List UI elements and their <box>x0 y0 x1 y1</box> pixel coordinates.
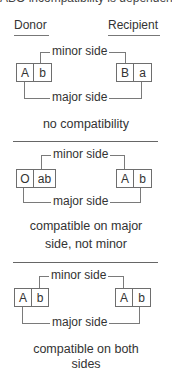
major-side-label: major side <box>50 316 109 329</box>
recipient-blood-type-box: A b <box>115 288 151 307</box>
donor-blood-type-box: A b <box>16 63 52 82</box>
recipient-antibody-cell: b <box>132 289 150 306</box>
donor-antigen-cell: A <box>15 289 31 306</box>
donor-underline <box>14 35 49 36</box>
minor-connector-left <box>40 52 41 63</box>
major-connector-left <box>22 307 23 323</box>
minor-connector-left <box>41 155 42 169</box>
major-connector-left <box>23 188 24 202</box>
donor-blood-type-box: A b <box>14 288 49 307</box>
section-divider <box>13 262 158 263</box>
recipient-antibody-cell: b <box>133 170 151 187</box>
recipient-antigen-cell: A <box>117 170 133 187</box>
recipient-antibody-cell: a <box>133 64 151 81</box>
recipient-blood-type-box: A b <box>116 169 152 188</box>
major-connector-right <box>141 82 142 98</box>
donor-antibody-cell: ab <box>33 170 55 187</box>
recipient-antigen-cell: A <box>116 289 132 306</box>
donor-antibody-cell: b <box>33 64 51 81</box>
donor-blood-type-box: O ab <box>16 169 56 188</box>
major-connector-right <box>139 307 140 323</box>
donor-heading: Donor <box>14 18 47 32</box>
top-clipped-text: ABO incompatibility is dependent <box>0 0 172 5</box>
caption-line-1: no compatibility <box>0 116 172 133</box>
major-side-label: major side <box>50 91 109 104</box>
donor-antigen-cell: O <box>17 170 33 187</box>
donor-antigen-cell: A <box>17 64 33 81</box>
caption-line-2: side, not minor <box>0 236 172 253</box>
major-connector-left <box>24 82 25 98</box>
minor-connector-right <box>123 276 124 288</box>
minor-connector-left <box>39 276 40 288</box>
caption-line-2: sides <box>0 356 172 370</box>
minor-side-label: minor side <box>50 45 109 58</box>
major-side-label: major side <box>51 195 110 208</box>
minor-side-label: minor side <box>51 148 110 161</box>
donor-antibody-cell: b <box>31 289 48 306</box>
major-connector-right <box>140 188 141 202</box>
minor-connector-right <box>125 52 126 63</box>
minor-side-label: minor side <box>49 269 108 282</box>
caption-line-1: compatible on major <box>0 218 172 235</box>
section-divider <box>13 141 158 142</box>
recipient-underline <box>108 35 160 36</box>
minor-connector-right <box>124 155 125 169</box>
recipient-blood-type-box: B a <box>116 63 152 82</box>
recipient-heading: Recipient <box>108 18 158 32</box>
recipient-antigen-cell: B <box>117 64 133 81</box>
